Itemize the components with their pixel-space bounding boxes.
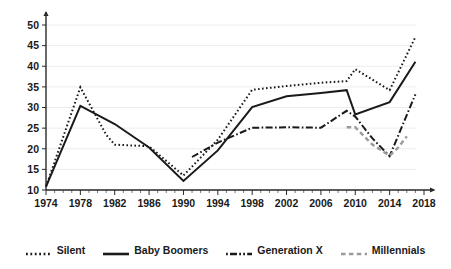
y-tick-label: 20	[27, 143, 39, 155]
x-tick-label: 1986	[137, 197, 161, 209]
legend-item-millennials[interactable]: Millennials	[341, 244, 426, 256]
plot-svg: 101520253035404550 197419781982198619901…	[0, 0, 451, 215]
x-tick-label: 1978	[69, 197, 93, 209]
series-line-generation-x	[192, 94, 415, 157]
y-tick-label: 40	[27, 60, 39, 72]
legend-label: Baby Boomers	[134, 244, 208, 256]
y-tick-label: 15	[27, 163, 39, 175]
series-line-baby-boomers	[46, 62, 415, 187]
dash-dot-line-swatch	[226, 245, 252, 255]
x-tick-label: 2014	[378, 197, 402, 209]
solid-line-swatch	[103, 245, 129, 255]
line-chart: 101520253035404550 197419781982198619901…	[0, 0, 451, 269]
series-line-millennials	[347, 127, 407, 155]
legend-item-baby-boomers[interactable]: Baby Boomers	[103, 244, 208, 256]
x-tick-label: 2006	[309, 197, 333, 209]
x-tick-label: 2018	[412, 197, 436, 209]
dashed-gray-line-swatch	[341, 245, 367, 255]
y-tick-label: 50	[27, 19, 39, 31]
plot-area: 101520253035404550 197419781982198619901…	[0, 0, 451, 215]
x-axis-ticks-group	[46, 190, 424, 195]
legend-label: Silent	[57, 244, 86, 256]
axis-lines-group	[43, 11, 435, 193]
y-tick-label: 45	[27, 39, 39, 51]
y-tick-label: 25	[27, 122, 39, 134]
legend-item-generation-x[interactable]: Generation X	[226, 244, 322, 256]
y-tick-label: 35	[27, 81, 39, 93]
x-tick-label: 2010	[344, 197, 368, 209]
x-tick-label: 1994	[206, 197, 230, 209]
dotted-line-swatch	[26, 245, 52, 255]
x-tick-label: 2002	[275, 197, 299, 209]
legend-item-silent[interactable]: Silent	[26, 244, 86, 256]
x-axis-arrow	[430, 187, 436, 192]
y-axis-arrow	[43, 11, 48, 16]
legend-label: Generation X	[257, 244, 322, 256]
y-tick-labels-group: 101520253035404550	[27, 19, 39, 196]
series-group	[46, 37, 415, 187]
x-tick-label: 1982	[103, 197, 127, 209]
x-tick-label: 1998	[241, 197, 265, 209]
gridlines-group	[46, 25, 416, 190]
y-tick-label: 10	[27, 184, 39, 196]
y-tick-label: 30	[27, 101, 39, 113]
x-tick-label: 1974	[34, 197, 58, 209]
x-tick-labels-group: 1974197819821986199019941998200220062010…	[34, 197, 436, 209]
legend-label: Millennials	[372, 244, 426, 256]
chart-legend: SilentBaby BoomersGeneration XMillennial…	[0, 238, 451, 262]
x-tick-label: 1990	[172, 197, 196, 209]
